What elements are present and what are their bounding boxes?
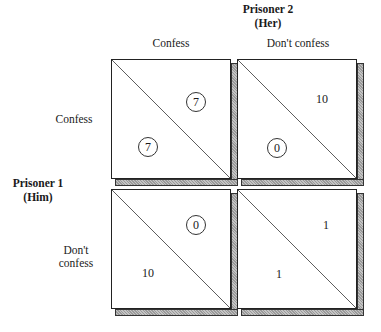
payoff-her: 10 — [311, 90, 333, 108]
cell-dontconfess-dontconfess: 1 1 — [237, 189, 355, 307]
cell-shadow — [115, 179, 238, 186]
cell-shadow — [241, 179, 364, 186]
payoff-him: 7 — [138, 137, 158, 157]
payoff-him: 10 — [137, 264, 159, 282]
diagonal-line — [237, 59, 357, 179]
column-player-label: Prisoner 2 — [218, 2, 318, 16]
row-header-dont-confess-1: Don't — [46, 243, 106, 257]
cell-confess-confess: 7 7 — [111, 59, 229, 177]
cell-confess-dontconfess: 10 0 — [237, 59, 355, 177]
cell-shadow — [241, 309, 364, 316]
row-player-sub: (Him) — [0, 190, 76, 204]
diagonal-line — [111, 59, 231, 179]
payoff-him: 0 — [267, 138, 287, 158]
column-header-confess: Confess — [121, 36, 221, 50]
cell-shadow — [115, 309, 238, 316]
row-header-dont-confess-2: confess — [46, 256, 106, 270]
column-player-sub: (Her) — [218, 16, 318, 30]
cell-dontconfess-confess: 0 10 — [111, 189, 229, 307]
cell-shadow — [357, 63, 364, 184]
diagonal-line — [111, 189, 231, 309]
row-header-confess: Confess — [44, 112, 104, 126]
column-header-dont-confess: Don't confess — [248, 36, 348, 50]
row-player-label: Prisoner 1 — [0, 176, 76, 190]
cell-shadow — [357, 193, 364, 314]
payoff-her: 0 — [186, 215, 206, 235]
diagonal-line — [237, 189, 357, 309]
payoff-her: 1 — [317, 216, 335, 234]
payoff-him: 1 — [270, 265, 288, 283]
payoff-her: 7 — [186, 92, 206, 112]
